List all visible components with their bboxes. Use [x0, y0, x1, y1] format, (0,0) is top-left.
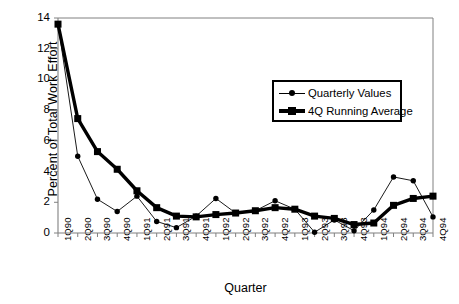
data-point-marker	[430, 193, 437, 200]
thin-line-circle-marker-icon	[279, 87, 305, 99]
legend-label: Quarterly Values	[308, 87, 391, 99]
data-point-marker	[133, 187, 140, 194]
data-point-marker	[212, 211, 219, 218]
data-point-marker	[291, 206, 298, 213]
data-point-marker	[370, 220, 377, 227]
data-point-marker	[272, 204, 279, 211]
data-point-marker	[371, 207, 376, 212]
legend: Quarterly Values 4Q Running Average	[272, 80, 402, 122]
data-point-marker	[390, 202, 397, 209]
series-line	[58, 24, 433, 232]
data-point-marker	[391, 174, 396, 179]
data-point-marker	[95, 197, 100, 202]
data-point-marker	[351, 221, 358, 228]
data-point-marker	[213, 196, 218, 201]
data-point-marker	[312, 230, 317, 235]
data-point-marker	[115, 209, 120, 214]
legend-item-4q-running-average: 4Q Running Average	[279, 103, 413, 119]
data-point-marker	[331, 215, 338, 222]
data-point-marker	[272, 198, 277, 203]
data-point-marker	[153, 204, 160, 211]
data-point-marker	[74, 115, 81, 122]
data-point-marker	[430, 214, 435, 219]
data-point-marker	[193, 213, 200, 220]
series-quarterly-values	[55, 21, 435, 234]
plot-area	[0, 0, 459, 304]
legend-item-quarterly-values: Quarterly Values	[279, 85, 391, 101]
legend-label: 4Q Running Average	[308, 105, 413, 117]
data-point-marker	[154, 219, 159, 224]
data-point-marker	[232, 210, 239, 217]
data-point-marker	[75, 154, 80, 159]
data-point-marker	[410, 195, 417, 202]
data-point-marker	[351, 228, 356, 233]
data-point-marker	[173, 213, 180, 220]
data-point-marker	[55, 21, 62, 28]
data-point-marker	[311, 213, 318, 220]
thick-line-square-marker-icon	[279, 105, 305, 117]
series-line	[58, 24, 433, 224]
data-point-marker	[252, 207, 259, 214]
chart-container: Percent of Total Work Effort Quarter 024…	[0, 0, 459, 304]
data-point-marker	[174, 225, 179, 230]
data-point-marker	[411, 178, 416, 183]
data-point-marker	[114, 166, 121, 173]
series-4q-running-average	[55, 21, 437, 228]
data-point-marker	[94, 148, 101, 155]
